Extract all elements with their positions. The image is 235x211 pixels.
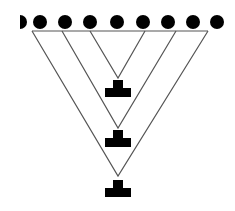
t-symbols [105, 80, 131, 197]
t-symbol-icon [105, 80, 131, 97]
dot-row [13, 15, 224, 29]
dot-icon [210, 15, 224, 29]
nested-triangle-diagram [0, 0, 235, 211]
dot-icon [83, 15, 97, 29]
dot-icon [186, 15, 200, 29]
triangle-inner [90, 31, 145, 78]
dot-icon [161, 15, 175, 29]
dot-icon [110, 15, 124, 29]
nested-triangles [32, 31, 208, 176]
t-symbol-icon [105, 180, 131, 197]
t-symbol-icon [105, 130, 131, 147]
dot-icon [33, 15, 47, 29]
dot-icon [13, 15, 27, 29]
dot-icon [136, 15, 150, 29]
triangle-middle [62, 31, 176, 128]
triangle-outer [32, 31, 208, 176]
dot-icon [58, 15, 72, 29]
